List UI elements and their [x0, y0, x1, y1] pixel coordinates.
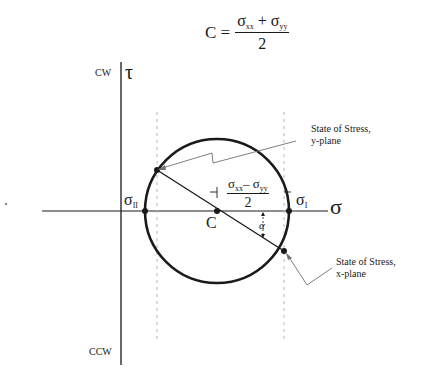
sigma-II-label: σII [124, 192, 138, 210]
point-sigma-I [286, 208, 292, 214]
half-difference-numerator: σxx– σyy [227, 176, 269, 194]
ccw-label: CCW [89, 347, 112, 357]
sigma-I-label: σI [296, 192, 307, 210]
formula-fraction: σxx + σyy 2 [235, 12, 289, 53]
leader-x-plane [287, 254, 332, 285]
stray-mark [5, 203, 7, 205]
mohr-circle-diagram [0, 0, 428, 376]
center-formula: C = σxx + σyy 2 [205, 12, 289, 53]
half-difference-fraction: σxx– σyy 2 [227, 176, 269, 211]
arrow-head-x-plane [286, 253, 292, 260]
center-label: C [206, 215, 217, 231]
point-sigma-II [142, 208, 148, 214]
annotation-y-plane: State of Stress, y-plane [311, 123, 371, 147]
formula-numerator: σxx + σyy [235, 12, 289, 33]
half-difference-denominator: 2 [244, 194, 251, 211]
annotation-x-plane: State of Stress, x-plane [336, 256, 396, 280]
alpha-label: α [259, 220, 265, 231]
leader-y-plane [159, 141, 296, 169]
sigma-label: σ [330, 196, 342, 218]
cw-label: CW [95, 68, 111, 78]
formula-lhs: C = [205, 23, 230, 43]
tau-label: τ [125, 62, 133, 82]
formula-denominator: 2 [258, 33, 266, 53]
alpha-arrow-top [261, 212, 265, 216]
